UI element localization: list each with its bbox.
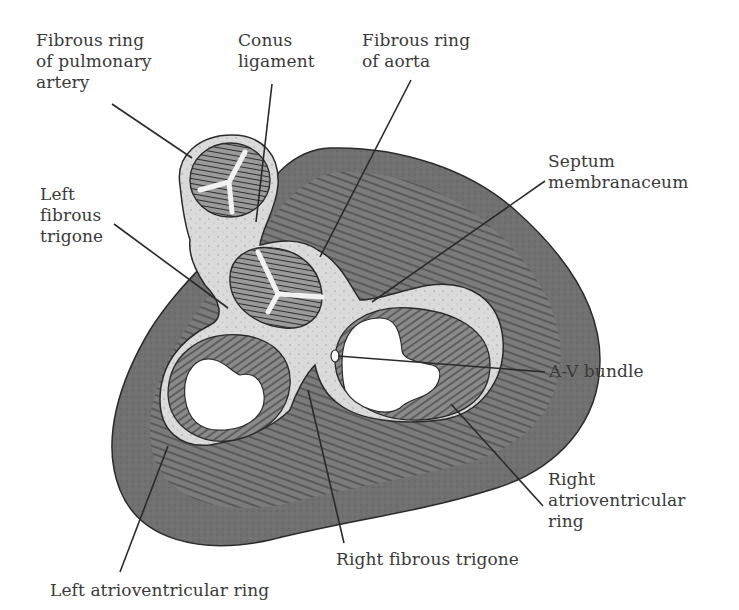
label-left-fibrous-trigone: Left fibrous trigone — [40, 184, 103, 247]
label-left-atrioventricular-ring: Left atrioventricular ring — [50, 580, 269, 601]
heart-fibrous-skeleton-diagram: Fibrous ring of pulmonary artery Conus l… — [0, 0, 739, 610]
label-fibrous-ring-pulmonary-artery: Fibrous ring of pulmonary artery — [36, 30, 152, 93]
label-right-fibrous-trigone: Right fibrous trigone — [336, 549, 519, 570]
av-bundle-marker — [331, 350, 339, 362]
leader-pulmonary-ring — [112, 104, 192, 158]
label-conus-ligament: Conus ligament — [238, 30, 315, 72]
label-fibrous-ring-aorta: Fibrous ring of aorta — [362, 30, 470, 72]
label-av-bundle: A-V bundle — [549, 361, 644, 382]
label-right-atrioventricular-ring: Right atrioventricular ring — [548, 469, 686, 532]
label-septum-membranaceum: Septum membranaceum — [548, 151, 688, 193]
